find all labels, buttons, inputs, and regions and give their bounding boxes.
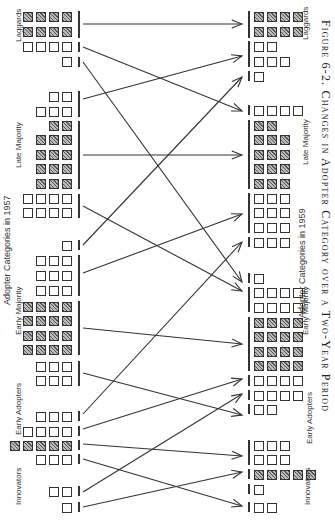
empty-box xyxy=(254,57,264,67)
right-group-bar xyxy=(248,41,250,67)
empty-box xyxy=(49,286,59,296)
empty-box xyxy=(62,376,72,386)
empty-box xyxy=(280,194,290,204)
arrowhead-icon xyxy=(231,394,242,403)
right-box-row xyxy=(254,121,277,131)
empty-box xyxy=(62,427,72,437)
right-box-row xyxy=(254,208,290,218)
empty-box xyxy=(267,208,277,218)
hatched-box xyxy=(23,441,33,451)
transition-arrow xyxy=(83,379,242,429)
empty-box xyxy=(293,106,303,116)
right-category-label: Late Majority xyxy=(301,119,310,165)
empty-box xyxy=(267,455,277,465)
hatched-box xyxy=(49,441,59,451)
right-box-row xyxy=(254,485,264,495)
hatched-box xyxy=(23,302,33,312)
transition-arrow xyxy=(83,459,242,506)
right-box-row xyxy=(254,303,303,313)
left-box-row xyxy=(36,455,72,465)
left-group-bar xyxy=(78,486,80,496)
left-box-row xyxy=(23,42,72,52)
left-axis-title: Adopter Categories in 1957 xyxy=(2,195,12,305)
left-box-row xyxy=(36,164,72,174)
empty-box xyxy=(254,194,264,204)
hatched-box xyxy=(280,470,290,480)
empty-box xyxy=(280,223,290,233)
hatched-box xyxy=(49,164,59,174)
left-category-label: Late Majority xyxy=(14,122,23,168)
hatched-box xyxy=(62,345,72,355)
left-box-row xyxy=(23,316,72,326)
left-group-bar xyxy=(78,11,80,38)
hatched-box xyxy=(36,302,46,312)
empty-box xyxy=(254,391,264,401)
left-box-row xyxy=(36,362,72,372)
right-box-row xyxy=(254,347,303,357)
right-box-row xyxy=(254,106,303,116)
left-group-bar xyxy=(78,426,80,436)
empty-box xyxy=(36,271,46,281)
transition-arrow xyxy=(83,214,242,273)
left-group-bar xyxy=(78,361,80,386)
right-box-row xyxy=(254,441,290,451)
hatched-box xyxy=(36,164,46,174)
right-box-row xyxy=(254,12,303,22)
hatched-box xyxy=(293,361,303,371)
left-box-row xyxy=(10,441,72,451)
arrowhead-icon xyxy=(231,283,242,291)
left-group-bar xyxy=(78,440,80,450)
left-box-row xyxy=(23,27,72,37)
empty-box xyxy=(293,391,303,401)
left-box-row xyxy=(36,412,72,422)
hatched-box xyxy=(62,150,72,160)
empty-box xyxy=(254,503,264,513)
hatched-box xyxy=(36,316,46,326)
empty-box xyxy=(267,288,277,298)
empty-box xyxy=(49,427,59,437)
empty-box xyxy=(254,223,264,233)
hatched-box xyxy=(49,302,59,312)
hatched-box xyxy=(49,150,59,160)
hatched-box xyxy=(280,332,290,342)
hatched-box xyxy=(267,332,277,342)
empty-box xyxy=(267,223,277,233)
right-group-bar xyxy=(248,105,250,115)
hatched-box xyxy=(267,27,277,37)
right-group-bar xyxy=(248,287,250,312)
right-box-row xyxy=(254,164,290,174)
empty-box xyxy=(62,455,72,465)
empty-box xyxy=(254,274,264,284)
left-box-row xyxy=(23,12,72,22)
hatched-box xyxy=(267,12,277,22)
right-group-bar xyxy=(248,237,250,247)
hatched-box xyxy=(49,316,59,326)
hatched-box xyxy=(36,345,46,355)
empty-box xyxy=(36,107,46,117)
hatched-box xyxy=(10,441,20,451)
left-box-row xyxy=(36,107,72,117)
hatched-box xyxy=(36,12,46,22)
empty-box xyxy=(254,441,264,451)
empty-box xyxy=(254,376,264,386)
hatched-box xyxy=(267,347,277,357)
empty-box xyxy=(36,412,46,422)
left-group-bar xyxy=(78,91,80,117)
empty-box xyxy=(36,208,46,218)
right-group-bar xyxy=(248,502,250,512)
empty-box xyxy=(49,256,59,266)
empty-box xyxy=(254,42,264,52)
right-box-row xyxy=(254,503,277,513)
right-group-bar xyxy=(248,120,250,189)
transition-arrow xyxy=(83,77,242,245)
transition-arrow xyxy=(83,328,242,344)
empty-box xyxy=(280,106,290,116)
right-group-bar xyxy=(248,440,250,465)
hatched-box xyxy=(36,150,46,160)
left-box-row xyxy=(49,92,72,102)
left-box-row xyxy=(62,57,72,67)
empty-box xyxy=(36,455,46,465)
hatched-box xyxy=(23,316,33,326)
hatched-box xyxy=(36,331,46,341)
right-box-row xyxy=(254,57,290,67)
